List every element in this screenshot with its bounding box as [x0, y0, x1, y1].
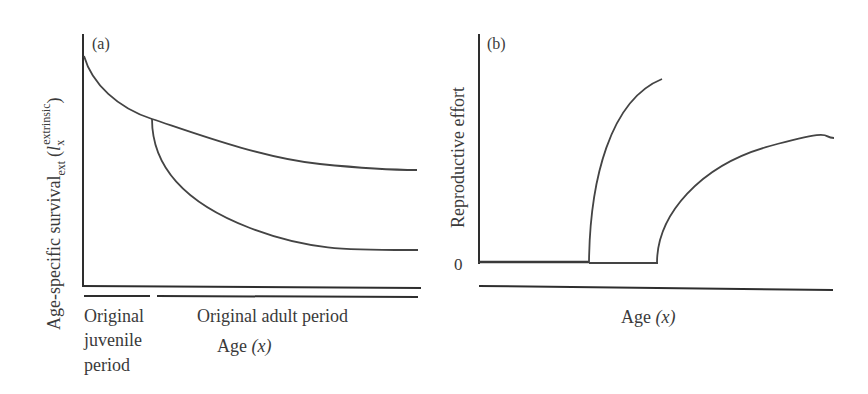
panel-a-x-axis-label: Age (x): [217, 336, 271, 357]
panel-a-label: (a): [92, 35, 110, 53]
panel-a-x-axis: [82, 286, 421, 288]
panel-a: (a) Age-specific survivalext(lxextrinsic…: [39, 34, 421, 375]
panel-a-juvenile-label-line3: period: [84, 355, 130, 375]
panel-b-curve-delayed-reproduction: [657, 135, 834, 263]
panel-a-juvenile-label-line2: juvenile: [83, 330, 142, 350]
panel-a-adult-label: Original adult period: [197, 306, 348, 326]
panel-a-curve-baseline-survival: [84, 56, 417, 170]
panel-b-zero-tick-label: 0: [454, 255, 463, 274]
panel-b-x-axis: [479, 286, 833, 290]
panel-b-label: (b): [487, 35, 506, 53]
panel-a-juvenile-label-line1: Original: [84, 306, 144, 326]
panel-b-curve-early-reproduction: [589, 79, 662, 262]
panel-b-y-axis-label: Reproductive effort: [448, 87, 468, 228]
panel-a-y-axis-label: Age-specific survivalext(lxextrinsic): [39, 98, 68, 330]
panel-a-adult-period-bracket: [157, 296, 418, 297]
panel-b: (b) Reproductive effort 0 Age (x): [448, 34, 834, 328]
figure: (a) Age-specific survivalext(lxextrinsic…: [0, 0, 868, 394]
panel-a-curve-reduced-survival: [152, 119, 418, 250]
panel-b-x-axis-label: Age (x): [621, 307, 675, 328]
